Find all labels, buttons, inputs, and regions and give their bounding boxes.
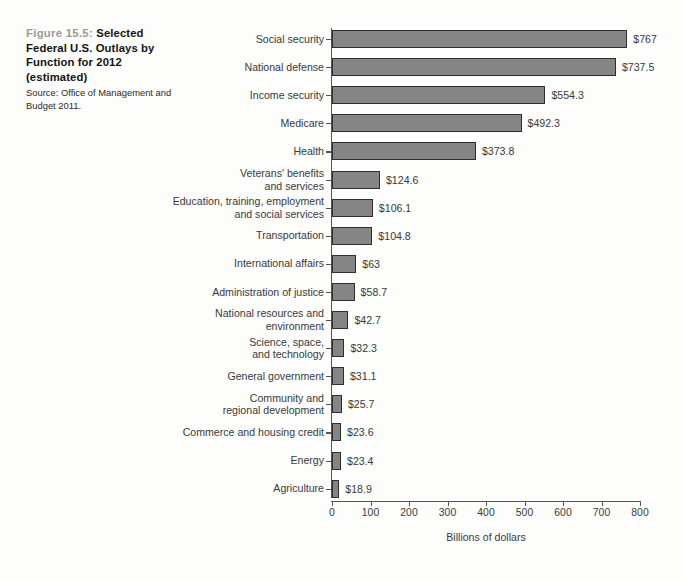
- bar-category-label: Energy: [64, 454, 324, 467]
- y-axis-tick: [326, 461, 331, 462]
- x-axis-tick-label: 200: [389, 507, 429, 518]
- bar: [332, 255, 356, 273]
- bar-category-label: Social security: [64, 33, 324, 46]
- bar-category-label: Veterans' benefits and services: [64, 167, 324, 192]
- x-axis-label: Billions of dollars: [332, 531, 640, 543]
- bar-value-label: $492.3: [528, 114, 560, 132]
- x-axis-tick-label: 300: [428, 507, 468, 518]
- bar-category-label: National resources and environment: [64, 307, 324, 332]
- bar-category-label: Agriculture: [64, 482, 324, 495]
- bar-category-label: Education, training, employment and soci…: [64, 195, 324, 220]
- y-axis-tick: [326, 348, 331, 349]
- bar-value-label: $63: [362, 255, 380, 273]
- x-axis-tick: [332, 501, 333, 506]
- x-axis-tick: [563, 501, 564, 506]
- bar-category-label: International affairs: [64, 257, 324, 270]
- bar: [332, 480, 339, 498]
- bar: [332, 339, 344, 357]
- figure-page: Figure 15.5: Selected Federal U.S. Outla…: [0, 0, 683, 582]
- y-axis-tick: [326, 39, 331, 40]
- bar-category-label: Medicare: [64, 117, 324, 130]
- bar: [332, 283, 355, 301]
- bar-value-label: $106.1: [379, 199, 411, 217]
- bar: [332, 142, 476, 160]
- bar-chart: Social security$767National defense$737.…: [0, 0, 683, 582]
- y-axis-tick: [326, 376, 331, 377]
- x-axis-tick: [602, 501, 603, 506]
- y-axis-tick: [326, 151, 331, 152]
- y-axis-tick: [326, 123, 331, 124]
- x-axis-tick-label: 0: [312, 507, 352, 518]
- bar-value-label: $32.3: [350, 339, 377, 357]
- bar-category-label: Commerce and housing credit: [64, 426, 324, 439]
- y-axis-tick: [326, 432, 331, 433]
- bar-value-label: $554.3: [551, 86, 583, 104]
- x-axis-tick: [640, 501, 641, 506]
- y-axis-tick: [326, 236, 331, 237]
- y-axis-tick: [326, 67, 331, 68]
- x-axis-tick: [371, 501, 372, 506]
- bar-value-label: $31.1: [350, 367, 377, 385]
- x-axis-tick: [409, 501, 410, 506]
- bar-category-label: Science, space, and technology: [64, 336, 324, 361]
- bar-value-label: $124.6: [386, 171, 418, 189]
- bar-category-label: Income security: [64, 89, 324, 102]
- y-axis-tick: [326, 320, 331, 321]
- bar-value-label: $737.5: [622, 58, 654, 76]
- bar: [332, 30, 627, 48]
- y-axis-tick: [326, 489, 331, 490]
- bar-value-label: $42.7: [354, 311, 381, 329]
- bar-category-label: National defense: [64, 61, 324, 74]
- bar-value-label: $18.9: [345, 480, 372, 498]
- bar: [332, 395, 342, 413]
- bar: [332, 114, 522, 132]
- bar-value-label: $104.8: [378, 227, 410, 245]
- bar: [332, 58, 616, 76]
- bar: [332, 199, 373, 217]
- bar-value-label: $23.4: [347, 452, 374, 470]
- x-axis-tick-label: 100: [351, 507, 391, 518]
- bar-category-label: Transportation: [64, 229, 324, 242]
- x-axis-tick-label: 600: [543, 507, 583, 518]
- bar: [332, 452, 341, 470]
- bar: [332, 171, 380, 189]
- y-axis-tick: [326, 208, 331, 209]
- y-axis-tick: [326, 264, 331, 265]
- y-axis-tick: [326, 95, 331, 96]
- y-axis-tick: [326, 292, 331, 293]
- bar: [332, 227, 372, 245]
- bar: [332, 367, 344, 385]
- bar-value-label: $58.7: [361, 283, 388, 301]
- x-axis-tick-label: 400: [466, 507, 506, 518]
- bar-category-label: Health: [64, 145, 324, 158]
- x-axis-tick-label: 500: [505, 507, 545, 518]
- bar: [332, 86, 545, 104]
- bar: [332, 423, 341, 441]
- y-axis-tick: [326, 180, 331, 181]
- x-axis-tick-label: 800: [620, 507, 660, 518]
- bar-value-label: $25.7: [348, 395, 375, 413]
- y-axis-tick: [326, 404, 331, 405]
- x-axis-tick: [486, 501, 487, 506]
- x-axis-tick-label: 700: [582, 507, 622, 518]
- x-axis-tick: [448, 501, 449, 506]
- bar-category-label: Administration of justice: [64, 286, 324, 299]
- bar-value-label: $23.6: [347, 423, 374, 441]
- bar-value-label: $373.8: [482, 142, 514, 160]
- bar-category-label: General government: [64, 370, 324, 383]
- bar-value-label: $767: [633, 30, 657, 48]
- x-axis-tick: [525, 501, 526, 506]
- bar: [332, 311, 348, 329]
- bar-category-label: Community and regional development: [64, 392, 324, 417]
